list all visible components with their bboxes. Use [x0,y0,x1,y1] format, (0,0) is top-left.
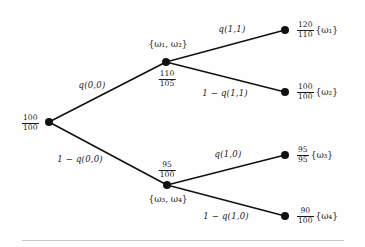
node-leaf-omega-2 [281,88,289,96]
edge-label-upper-up: q(1,1) [219,25,246,34]
edge-label-root-up: q(0,0) [79,81,106,90]
leaf-value-denominator-4: 100 [297,217,314,226]
node-root [45,118,53,126]
root-value: 100 100 [22,114,39,133]
leaf-set-label-1: {ω₁} [316,26,338,35]
leaf-label-omega-2: 100 100 {ω₂} [297,83,338,102]
footer-divider [22,240,344,241]
lower-node-value-fraction: 95 100 [159,161,176,180]
root-value-denominator: 100 [22,124,39,133]
node-leaf-omega-1 [281,26,289,34]
leaf-value-denominator-1: 110 [297,31,314,40]
node-leaf-omega-4 [281,212,289,220]
decision-tree-figure: 100 100 {ω₁, ω₂} 110 105 95 100 {ω₃, ω₄}… [0,0,365,247]
edge-label-root-down: 1 − q(0,0) [57,155,103,164]
leaf-value-fraction-3: 95 95 [297,146,309,165]
edge-label-lower-up: q(1,0) [215,150,242,159]
leaf-label-omega-1: 120 110 {ω₁} [297,21,338,40]
node-upper [162,58,170,66]
root-value-fraction: 100 100 [22,114,39,133]
edge-label-lower-down: 1 − q(1,0) [203,212,249,221]
node-leaf-omega-3 [281,151,289,159]
upper-node-set-label: {ω₁, ω₂} [148,40,187,49]
upper-node-value-fraction: 110 105 [159,70,176,89]
edge-lower-to-leaf-3 [167,155,285,185]
leaf-value-denominator-3: 95 [297,156,309,165]
upper-node-value: 110 105 [159,70,176,89]
leaf-set-label-2: {ω₂} [316,88,338,97]
leaf-value-fraction-2: 100 100 [297,83,314,102]
leaf-label-omega-4: 90 100 {ω₄} [297,207,338,226]
lower-node-value: 95 100 [159,161,176,180]
edge-label-upper-down: 1 − q(1,1) [202,89,248,98]
leaf-set-label-4: {ω₄} [316,212,338,221]
leaf-value-fraction-4: 90 100 [297,207,314,226]
lower-node-value-denominator: 100 [159,171,176,180]
leaf-value-fraction-1: 120 110 [297,21,314,40]
leaf-label-omega-3: 95 95 {ω₃} [297,146,333,165]
leaf-set-label-3: {ω₃} [311,151,333,160]
lower-node-set-label: {ω₃, ω₄} [148,195,187,204]
node-lower [163,181,171,189]
upper-node-value-denominator: 105 [159,80,176,89]
edge-root-to-upper [49,62,166,122]
leaf-value-denominator-2: 100 [297,93,314,102]
